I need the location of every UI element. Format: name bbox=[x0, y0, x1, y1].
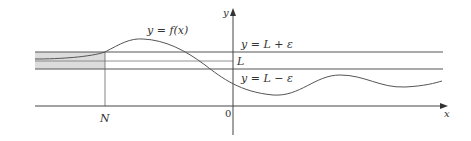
limit-diagram: y = f(x) y = L + ε L y = L − ε N 0 x y bbox=[0, 0, 471, 141]
limit-label: L bbox=[236, 55, 244, 68]
y-axis-label: y bbox=[222, 7, 229, 18]
n-marker-label: N bbox=[99, 112, 110, 125]
curve-label: y = f(x) bbox=[146, 24, 188, 37]
upper-bound-label: y = L + ε bbox=[240, 38, 293, 51]
y-axis-arrow-icon bbox=[230, 8, 236, 16]
origin-label: 0 bbox=[225, 108, 231, 119]
lower-bound-label: y = L − ε bbox=[240, 72, 293, 85]
x-axis-label: x bbox=[444, 108, 450, 119]
